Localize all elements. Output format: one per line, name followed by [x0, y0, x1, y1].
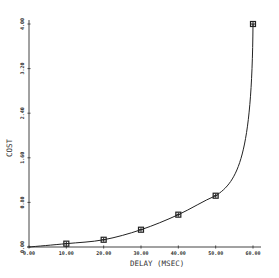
x-tick-label: 50.00: [208, 250, 223, 256]
x-axis-title: DELAY (MSEC): [130, 259, 184, 268]
x-tick-label: 20.00: [96, 250, 111, 256]
y-tick-label: 1.60: [19, 152, 25, 164]
x-tick-label: 60.00: [245, 250, 260, 256]
x-tick-label: 40.00: [171, 250, 186, 256]
y-tick-label: 4.00: [19, 18, 25, 30]
cost-curve: [29, 24, 253, 247]
y-tick-label: 0.80: [19, 196, 25, 208]
y-axis-title: COST: [5, 138, 14, 157]
cost-vs-delay-chart: 0.000.801.602.403.204.00 0.0010.0020.003…: [0, 0, 279, 278]
x-tick-label: 30.00: [133, 250, 148, 256]
y-tick-label: 2.40: [19, 107, 25, 119]
x-tick-label: 10.00: [59, 250, 74, 256]
x-tick-label: 0.00: [23, 250, 35, 256]
axes: [27, 20, 261, 247]
data-markers: [64, 22, 256, 247]
y-tick-label: 3.20: [19, 63, 25, 75]
